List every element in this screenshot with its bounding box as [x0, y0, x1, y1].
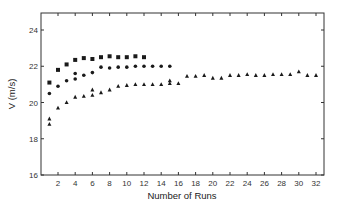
- circle-marker: [48, 92, 52, 96]
- triangle-marker: [90, 93, 94, 97]
- circle-marker: [82, 74, 86, 78]
- square-marker: [125, 55, 129, 59]
- triangle-marker: [47, 117, 51, 121]
- square-marker: [142, 55, 146, 59]
- square-marker: [82, 56, 86, 60]
- triangle-marker: [142, 82, 146, 86]
- triangle-marker: [116, 84, 120, 88]
- triangle-marker: [237, 73, 241, 77]
- circle-marker: [65, 79, 69, 83]
- x-tick-label: 8: [107, 179, 112, 188]
- circle-marker: [134, 64, 138, 68]
- circle-marker: [125, 65, 129, 69]
- y-tick-label: 20: [29, 99, 38, 108]
- triangle-marker: [82, 94, 86, 98]
- triangle-marker: [125, 83, 129, 87]
- triangle-marker: [194, 74, 198, 78]
- circle-marker: [91, 71, 95, 75]
- triangle-marker: [47, 122, 51, 126]
- square-marker: [47, 81, 51, 85]
- triangle-marker: [202, 73, 206, 77]
- plot-area: 24681012141618202224262830321618202224: [29, 13, 324, 188]
- x-tick-label: 4: [73, 179, 78, 188]
- circle-marker: [116, 65, 120, 69]
- x-tick-label: 16: [174, 179, 183, 188]
- x-tick-label: 24: [243, 179, 252, 188]
- circle-marker: [168, 64, 172, 68]
- plot-frame: [41, 13, 324, 175]
- circle-marker: [151, 64, 155, 68]
- triangle-marker: [176, 81, 180, 85]
- y-tick-label: 16: [29, 171, 38, 180]
- triangle-marker: [65, 100, 69, 104]
- x-tick-label: 10: [122, 179, 131, 188]
- triangle-marker: [211, 76, 215, 80]
- square-marker: [116, 55, 120, 59]
- triangle-marker: [305, 73, 309, 77]
- circle-marker: [56, 84, 60, 88]
- x-tick-label: 6: [90, 179, 95, 188]
- x-tick-label: 30: [294, 179, 303, 188]
- x-tick-label: 26: [260, 179, 269, 188]
- x-tick-label: 2: [56, 179, 61, 188]
- circle-marker: [159, 64, 163, 68]
- triangle-marker: [159, 82, 163, 86]
- x-tick-label: 32: [312, 179, 321, 188]
- scatter-chart: 24681012141618202224262830321618202224 N…: [0, 0, 341, 208]
- square-marker: [133, 54, 137, 58]
- square-marker: [65, 62, 69, 66]
- y-tick-label: 18: [29, 135, 38, 144]
- circle-marker: [73, 77, 77, 81]
- triangle-marker: [271, 72, 275, 76]
- circle-marker: [142, 64, 146, 68]
- triangle-marker: [245, 72, 249, 76]
- triangle-marker: [314, 73, 318, 77]
- triangle-marker: [133, 82, 137, 86]
- triangle-marker: [254, 73, 258, 77]
- triangle-marker: [280, 72, 284, 76]
- square-marker: [73, 58, 77, 62]
- x-tick-label: 12: [140, 179, 149, 188]
- triangle-marker: [185, 74, 189, 78]
- circle-marker: [73, 72, 77, 76]
- square-marker: [108, 54, 112, 58]
- triangle-marker: [168, 79, 172, 83]
- x-tick-label: 22: [226, 179, 235, 188]
- triangle-marker: [262, 73, 266, 77]
- circle-marker: [99, 65, 103, 69]
- triangle-marker: [56, 106, 60, 110]
- x-axis-title: Number of Runs: [147, 190, 216, 201]
- triangle-marker: [90, 88, 94, 92]
- triangle-marker: [219, 76, 223, 80]
- square-marker: [56, 68, 60, 72]
- triangle-marker: [73, 95, 77, 99]
- triangle-marker: [288, 72, 292, 76]
- triangle-marker: [228, 73, 232, 77]
- x-tick-label: 28: [277, 179, 286, 188]
- y-tick-label: 22: [29, 62, 38, 71]
- x-tick-label: 18: [191, 179, 200, 188]
- triangle-marker: [297, 69, 301, 73]
- triangle-marker: [151, 82, 155, 86]
- triangle-marker: [99, 90, 103, 94]
- x-tick-label: 14: [157, 179, 166, 188]
- x-tick-label: 20: [208, 179, 217, 188]
- triangle-marker: [108, 88, 112, 92]
- square-marker: [99, 55, 103, 59]
- y-axis-title: V (m/s): [6, 79, 17, 110]
- y-tick-label: 24: [29, 26, 38, 35]
- square-marker: [90, 57, 94, 61]
- circle-marker: [108, 66, 112, 70]
